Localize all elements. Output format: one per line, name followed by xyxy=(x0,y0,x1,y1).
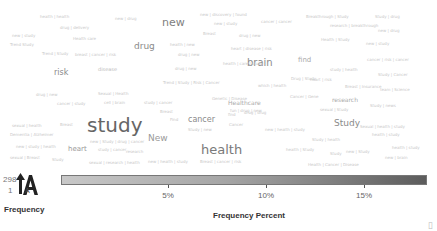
cloud-word[interactable]: new | drug xyxy=(115,17,136,21)
cloud-word[interactable]: New xyxy=(148,134,168,143)
cloud-word[interactable]: new | health | study xyxy=(148,160,188,164)
cloud-word[interactable]: drug | new xyxy=(36,93,57,97)
cloud-word[interactable]: Breast | Insurance xyxy=(345,85,381,89)
cloud-word[interactable]: new | Study xyxy=(346,150,370,154)
cloud-word[interactable]: new | study xyxy=(214,22,237,26)
cloud-word[interactable]: Drug | Study xyxy=(291,77,316,81)
cloud-word[interactable]: sexual | Breast xyxy=(10,156,40,160)
cloud-word[interactable]: health | care | study xyxy=(223,62,263,66)
cloud-word[interactable]: study xyxy=(87,115,142,135)
cloud-word[interactable]: new | discovery | found xyxy=(200,13,247,17)
cloud-word[interactable]: Health | Study xyxy=(321,38,350,42)
cloud-word[interactable]: health | new xyxy=(170,43,195,47)
cloud-word[interactable]: Breast xyxy=(203,32,216,36)
svg-text:A: A xyxy=(25,187,30,194)
cloud-word[interactable]: heart | disease | risk xyxy=(231,47,272,51)
cloud-word[interactable]: health | study xyxy=(372,133,400,137)
cloud-word[interactable]: Trend | Study xyxy=(42,52,68,56)
cloud-word[interactable]: drug | new xyxy=(239,34,260,38)
cloud-word[interactable]: drug | delivery xyxy=(60,26,89,30)
cloud-word[interactable]: new | health | study xyxy=(265,128,305,132)
cloud-word[interactable]: Trend Study xyxy=(10,43,34,47)
cloud-word[interactable]: Breast | cancer | risk xyxy=(200,160,241,164)
cloud-word[interactable]: new | drug xyxy=(378,29,399,33)
cloud-word[interactable]: Cancer xyxy=(229,123,243,127)
cloud-word[interactable]: Breast xyxy=(160,110,173,114)
cloud-word[interactable]: Find xyxy=(170,118,178,122)
colorbar-tick-label: 10% xyxy=(258,191,274,200)
cloud-word[interactable]: new | Study | drug | cancer xyxy=(90,140,144,144)
cloud-word[interactable]: find xyxy=(228,113,236,117)
cloud-word[interactable]: Study | Cancer xyxy=(378,73,408,77)
cloud-word[interactable]: sexual | Study xyxy=(320,108,348,112)
cloud-word[interactable]: cancer | cancer xyxy=(261,20,292,24)
cloud-word[interactable]: drug | new xyxy=(178,53,199,57)
cloud-word[interactable]: cancer | study xyxy=(57,102,85,106)
cloud-word[interactable]: study | health xyxy=(330,68,358,72)
cloud-word[interactable]: Breast xyxy=(60,123,73,127)
cloud-word[interactable]: Dementia | Alzheimer xyxy=(10,133,54,137)
cloud-word[interactable]: which | health xyxy=(258,84,286,88)
cloud-word[interactable]: Study xyxy=(334,119,360,128)
cloud-word[interactable]: sexual | research | health xyxy=(89,161,140,165)
colorbar-tick xyxy=(168,185,169,188)
cloud-word[interactable]: study | cancer xyxy=(98,148,126,152)
frequency-min-value: 1 xyxy=(8,186,12,195)
cloud-word[interactable]: Sexual | Health xyxy=(98,92,128,96)
cloud-word[interactable]: Trend | Study | Risk | Cancer xyxy=(163,81,220,85)
cloud-word[interactable]: drug | new xyxy=(175,67,196,71)
frequency-max-value: 298 xyxy=(3,175,16,184)
cloud-word[interactable]: cell | brain xyxy=(104,101,125,105)
frequency-percent-colorbar xyxy=(61,175,427,185)
cloud-word[interactable]: research | breakthrough xyxy=(330,24,378,28)
cloud-word[interactable]: Cancer | Gene xyxy=(290,95,319,99)
cloud-word[interactable]: Study | drug xyxy=(375,15,400,19)
resize-handle-icon: ▯ xyxy=(428,220,433,230)
cloud-word[interactable]: Health care xyxy=(73,37,96,41)
cloud-word[interactable]: new xyxy=(162,17,185,28)
cloud-word[interactable]: team | Science xyxy=(380,88,410,92)
cloud-word[interactable]: new | brain xyxy=(385,156,407,160)
colorbar-tick-label: 15% xyxy=(356,191,372,200)
cloud-word[interactable]: health | Study xyxy=(286,148,314,152)
cloud-word[interactable]: heart xyxy=(68,146,87,153)
cloud-word[interactable]: new | study xyxy=(366,42,389,46)
colorbar-tick-label: 5% xyxy=(162,191,174,200)
cloud-word[interactable]: Health | Cancer | Disease xyxy=(308,163,359,167)
cloud-word[interactable]: Study xyxy=(52,158,64,162)
colorbar-tick xyxy=(266,185,267,188)
cloud-word[interactable]: cancer xyxy=(188,116,215,124)
cloud-word[interactable]: research xyxy=(126,150,143,154)
cloud-word[interactable]: drug | drug xyxy=(244,111,266,115)
cloud-word[interactable]: study | cancer xyxy=(144,101,172,105)
frequency-percent-label: Frequency Percent xyxy=(213,211,285,220)
cloud-word[interactable]: sexual | health xyxy=(12,124,42,128)
cloud-word[interactable]: cancer | risk | cancer xyxy=(367,58,409,62)
cloud-word[interactable]: risk xyxy=(54,69,68,77)
cloud-word[interactable]: Sexual | health | study xyxy=(360,125,405,129)
cloud-word[interactable]: new | study xyxy=(12,34,35,38)
cloud-word[interactable]: Breakthrough | Study xyxy=(306,15,349,19)
cloud-word[interactable]: research xyxy=(332,97,358,103)
cloud-word[interactable]: Study | new xyxy=(188,128,212,132)
cloud-word[interactable]: Study | health xyxy=(312,138,340,142)
frequency-label: Frequency xyxy=(4,205,44,214)
cloud-word[interactable]: breast | cancer | risk xyxy=(75,53,116,57)
cloud-word[interactable]: find xyxy=(298,57,311,64)
font-size-icon: A xyxy=(16,172,38,196)
cloud-word[interactable]: new | study | health xyxy=(16,145,56,149)
cloud-word[interactable]: Study | news xyxy=(370,104,396,108)
cloud-word[interactable]: Study xyxy=(330,152,342,156)
word-cloud: studyhealthnewbrainStudydrugNewcancerris… xyxy=(0,0,437,160)
cloud-word[interactable]: health | health xyxy=(40,15,69,19)
cloud-word[interactable]: drug xyxy=(134,42,155,51)
cloud-word[interactable]: health xyxy=(201,143,242,156)
cloud-word[interactable]: health | study xyxy=(392,146,420,150)
colorbar-tick xyxy=(364,185,365,188)
cloud-word[interactable]: disease xyxy=(98,67,117,72)
cloud-word[interactable]: Genetic | Disease xyxy=(212,97,247,101)
